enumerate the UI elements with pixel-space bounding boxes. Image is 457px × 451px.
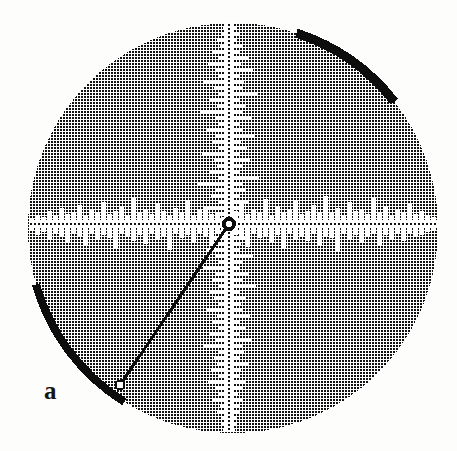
axis-spike [233,68,253,72]
axis-spike [233,368,241,372]
axis-spike [348,228,352,240]
axis-spike [402,228,406,241]
axis-spike [233,332,239,336]
axis-spike [318,212,322,220]
axis-spike [384,228,388,235]
axis-spike [300,214,304,220]
axis-spike [212,278,225,282]
axis-spike [72,228,76,233]
axis-spike [233,302,241,306]
axis-spike [72,212,76,220]
axis-spike [288,210,292,220]
axis-spike [233,110,243,114]
axis-spike [233,350,244,354]
axis-spike [204,228,208,237]
axis-spike [84,228,88,245]
axis-spike [102,202,106,220]
axis-spike [258,212,262,220]
axis-spike [233,140,241,144]
axis-spike [233,392,238,396]
axis-spike [219,176,225,180]
axis-spike [219,92,225,96]
axis-spike [217,410,225,414]
axis-spike [233,98,240,102]
axis-spike [114,211,118,220]
axis-spike [212,140,225,144]
axis-spike [78,205,82,220]
axis-spike [270,215,274,220]
axis-spike [96,213,100,220]
axis-spike [150,214,154,220]
axis-spike [396,210,400,220]
axis-spike [221,416,225,420]
axis-spike [220,404,225,408]
axis-spike [246,214,250,220]
axis-spike [42,217,46,220]
axis-spike [258,228,262,238]
axis-spike [210,214,214,220]
axis-spike [264,228,268,236]
axis-spike [233,50,240,54]
axis-spike [233,278,242,282]
axis-spike [372,197,376,220]
axis-spike [60,228,64,237]
axis-spike [360,209,364,220]
axis-spike [252,228,256,234]
axis-spike [233,320,240,324]
axis-spike [233,62,241,66]
axis-spike [30,218,34,220]
axis-spike [233,362,248,366]
axis-spike [233,380,245,384]
axis-spike [218,392,225,396]
axis-spike [233,314,250,318]
axis-spike [366,228,370,237]
axis-spike [203,266,225,270]
axis-spike [276,207,280,220]
axis-spike [198,182,225,186]
axis-spike [174,228,178,233]
axis-spike [233,86,242,90]
axis-spike [233,164,243,168]
axis-spike [216,134,225,138]
axis-spike [233,176,259,180]
axis-spike [233,266,240,270]
axis-spike [138,228,142,235]
axis-spike [66,228,70,242]
axis-spike [114,228,118,248]
axis-spike [213,398,225,402]
axis-spike [233,182,242,186]
axis-spike [219,260,225,264]
axis-spike [209,170,225,174]
axis-spike [233,386,242,390]
axis-spike [233,206,241,210]
axis-spike [120,207,124,220]
axis-spike [233,194,239,198]
axis-spike [233,170,240,174]
axis-spike [233,428,235,432]
axis-spike [211,194,225,198]
axis-spike [217,164,225,168]
axis-spike [209,290,225,294]
axis-spike [233,326,246,330]
axis-spike [42,228,46,232]
axis-spike [162,211,166,220]
axis-spike [54,228,58,234]
axis-spike [420,228,424,235]
axis-spike [233,44,243,48]
axis-spike [354,228,358,235]
axis-spike [342,215,346,220]
axis-spike [216,68,225,72]
axis-spike [233,128,242,132]
axis-spike [156,204,160,220]
axis-spike [206,128,225,132]
axis-spike [210,98,225,102]
origin-ring-hole [226,221,232,227]
axis-spike [214,158,225,162]
axis-spike [233,104,246,108]
axis-spike [233,242,241,246]
axis-spike [300,228,304,237]
axis-spike [217,362,225,366]
axis-spike [233,272,248,276]
axis-spike [233,416,237,420]
axis-spike [220,44,225,48]
